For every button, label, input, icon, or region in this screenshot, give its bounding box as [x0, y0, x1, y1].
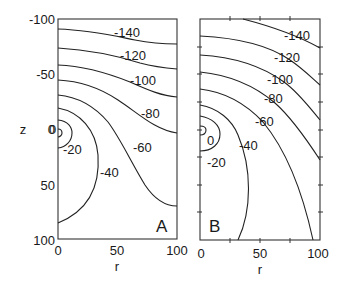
contour-label: -140	[114, 25, 140, 40]
contour-label: -120	[274, 50, 300, 65]
panel-a: -100 -50 0 50 100 z 0 50 100 r -140 -120…	[20, 12, 188, 274]
contour-label: -40	[100, 165, 119, 180]
contour-line-100	[58, 65, 177, 97]
contour-label: 0	[49, 122, 56, 137]
x-axis-label: r	[258, 262, 263, 277]
contour-label: -140	[284, 28, 310, 43]
panel-b-frame	[200, 19, 320, 240]
contour-line-0	[58, 129, 62, 137]
contour-label: -40	[239, 138, 258, 153]
y-axis-label: z	[20, 122, 27, 137]
contour-label: -60	[255, 114, 274, 129]
contour-label: -60	[133, 140, 152, 155]
contour-label: -20	[207, 155, 226, 170]
x-axis-label: r	[115, 259, 120, 274]
contour-line-100	[200, 55, 320, 120]
x-tick-label: 100	[166, 243, 188, 258]
contour-label: 0	[207, 133, 214, 148]
contour-figure: -100 -50 0 50 100 z 0 50 100 r -140 -120…	[0, 0, 346, 288]
panel-a-frame	[58, 19, 177, 239]
contour-label: -80	[141, 106, 160, 121]
contour-line-40	[58, 108, 98, 223]
contour-line-120	[58, 48, 177, 69]
contour-label: -20	[63, 142, 82, 157]
contour-label: -100	[130, 73, 156, 88]
panel-b: 0 50 100 r -140 -120 -100 -80 -60 -40 -2…	[197, 16, 329, 277]
panel-label-b: B	[209, 217, 220, 236]
contour-line-120	[200, 36, 320, 85]
panel-b-ticks	[197, 16, 323, 243]
y-tick-label: 50	[41, 178, 55, 193]
y-tick-label: 100	[33, 233, 55, 248]
contour-label: -120	[120, 48, 146, 63]
y-tick-label: -100	[29, 12, 55, 27]
x-tick-label: 100	[307, 246, 329, 261]
x-tick-label: 0	[197, 246, 204, 261]
x-tick-label: 50	[253, 246, 267, 261]
y-tick-label: -50	[36, 67, 55, 82]
contour-label: -100	[267, 72, 293, 87]
contour-line-40	[200, 105, 249, 240]
panel-label-a: A	[156, 217, 168, 236]
x-tick-label: 50	[110, 243, 124, 258]
x-tick-label: 0	[54, 243, 61, 258]
contour-label: -80	[264, 91, 283, 106]
